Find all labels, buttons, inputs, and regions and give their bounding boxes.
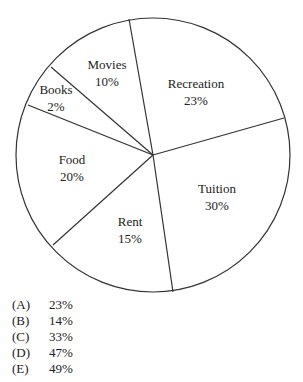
choice-letter: (B) bbox=[12, 313, 49, 329]
value-movies: 10% bbox=[95, 74, 119, 89]
choice-value: 33% bbox=[49, 329, 73, 345]
choice-value: 47% bbox=[49, 345, 73, 361]
value-food: 20% bbox=[60, 169, 84, 184]
choice-c[interactable]: (C)33% bbox=[12, 329, 73, 345]
choice-value: 23% bbox=[49, 297, 73, 313]
choice-letter: (E) bbox=[12, 361, 49, 377]
choice-letter: (C) bbox=[12, 329, 49, 345]
choice-a[interactable]: (A)23% bbox=[12, 297, 73, 313]
choice-d[interactable]: (D)47% bbox=[12, 345, 73, 361]
label-food: Food bbox=[59, 152, 86, 167]
choice-b[interactable]: (B)14% bbox=[12, 313, 73, 329]
choice-letter: (D) bbox=[12, 345, 49, 361]
choice-value: 49% bbox=[49, 361, 73, 377]
pie-chart: Recreation 23% Tuition 30% Rent 15% Food… bbox=[0, 0, 303, 300]
value-tuition: 30% bbox=[205, 198, 229, 213]
label-rent: Rent bbox=[118, 214, 143, 229]
value-recreation: 23% bbox=[184, 93, 208, 108]
label-movies: Movies bbox=[88, 57, 127, 72]
label-tuition: Tuition bbox=[198, 181, 236, 196]
choice-letter: (A) bbox=[12, 297, 49, 313]
label-recreation: Recreation bbox=[168, 76, 225, 91]
value-rent: 15% bbox=[118, 231, 142, 246]
choice-e[interactable]: (E)49% bbox=[12, 361, 73, 377]
choice-value: 14% bbox=[49, 313, 73, 329]
label-books: Books bbox=[39, 82, 72, 97]
value-books: 2% bbox=[47, 99, 65, 114]
answer-choices: (A)23% (B)14% (C)33% (D)47% (E)49% bbox=[12, 297, 73, 377]
